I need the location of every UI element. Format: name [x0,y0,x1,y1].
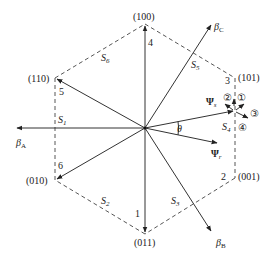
axis-beta-b [145,128,211,231]
direction-2: ② [223,92,232,103]
sector-s5: S5 [191,59,200,72]
index-4: 4 [148,37,153,48]
label-011: (011) [134,237,155,249]
index-3: 3 [225,75,230,86]
index-6: 6 [58,160,63,171]
label-100: (100) [133,11,155,23]
sector-s3: S3 [171,195,180,208]
label-110: (110) [28,73,49,85]
flux-vectors [145,111,233,143]
index-1: 1 [135,208,140,219]
origin-point [144,127,147,130]
label-beta-a: βA [15,137,26,150]
index-2: 2 [221,171,226,182]
space-vector-diagram: (100) (101) (001) (011) (010) (110) 4 3 … [0,0,271,255]
vector-110 [57,79,145,128]
label-theta: θ [177,123,182,134]
direction-3: ③ [250,108,259,119]
sector-s1: S1 [58,114,67,127]
vector-010 [57,128,145,179]
label-001: (001) [238,171,260,183]
direction-1: ① [237,92,246,103]
sector-s2: S2 [101,195,110,208]
label-010: (010) [26,175,48,187]
sector-s6: S6 [101,52,110,65]
direction-4: ④ [238,122,247,133]
index-5: 5 [59,86,64,97]
label-101: (101) [238,72,260,84]
label-rotor-flux: Ψr [211,148,222,161]
sector-s4: S4 [222,121,231,134]
label-beta-b: βB [215,237,226,250]
axis-beta-c [145,25,211,128]
label-stator-flux: Ψs [206,96,217,109]
label-beta-c: βC [213,21,224,34]
stator-flux-vector [145,111,233,128]
